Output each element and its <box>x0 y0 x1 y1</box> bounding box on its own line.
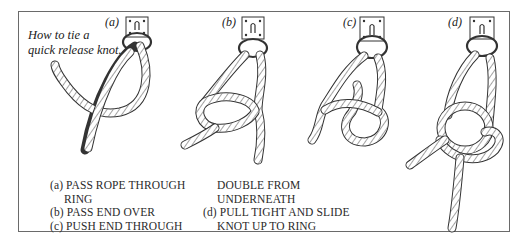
figure-a-drawing <box>55 17 151 150</box>
instruction-a-cont: RING <box>50 193 185 207</box>
instruction-a: (a) PASS ROPE THROUGH <box>50 179 185 193</box>
figure-b-drawing <box>185 17 267 160</box>
figure-c-drawing <box>312 17 387 142</box>
instruction-d: (d) PULL TIGHT AND SLIDE <box>203 206 350 220</box>
instructions-column-2: DOUBLE FROM UNDERNEATH (d) PULL TIGHT AN… <box>203 179 350 233</box>
instruction-b: (b) PASS END OVER <box>50 206 185 220</box>
instruction-c-cont-1: DOUBLE FROM <box>203 179 350 193</box>
wall-plate-icon <box>242 17 264 39</box>
instruction-c: (c) PUSH END THROUGH <box>50 220 185 234</box>
instructions-column-1: (a) PASS ROPE THROUGH RING (b) PASS END … <box>50 179 185 233</box>
figure-d-drawing <box>410 17 499 228</box>
instruction-d-cont: KNOT UP TO RING <box>203 220 350 234</box>
instruction-c-cont-2: UNDERNEATH <box>203 193 350 207</box>
